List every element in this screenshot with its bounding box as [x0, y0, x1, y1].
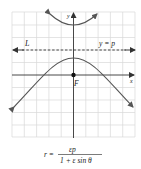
directrix-label-L: L: [24, 39, 30, 48]
directrix-label-equation: y = p: [98, 39, 115, 48]
hyperbola-diagram: x y L y = p F r = εp 1 + ε sin θ: [0, 0, 141, 169]
x-axis-label: x: [129, 78, 133, 84]
polar-equation: r = εp 1 + ε sin θ: [44, 145, 102, 165]
formula-numerator: εp: [69, 145, 76, 154]
focus-label: F: [73, 79, 79, 88]
focus-point: [71, 73, 75, 77]
formula-denominator: 1 + ε sin θ: [60, 156, 92, 165]
directrix: L y = p: [13, 39, 135, 50]
formula-lhs: r =: [44, 150, 54, 159]
y-axis-label: y: [66, 13, 70, 19]
